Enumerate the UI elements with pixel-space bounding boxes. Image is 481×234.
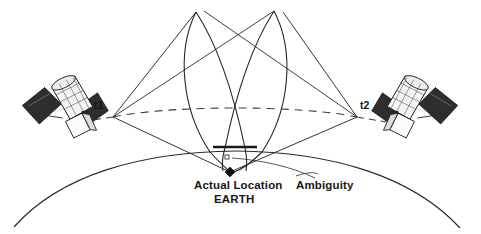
label-actual-location: Actual Location [194, 179, 283, 191]
figure-root: t1 t2 Actual Location EARTH Ambiguity [0, 0, 481, 234]
sight-line-t2-upper [283, 12, 357, 117]
ambiguity-point-marker [225, 155, 229, 159]
baseline-dashed-t1-t2 [113, 108, 357, 117]
marker-ambiguity [225, 155, 229, 159]
label-t1: t1 [94, 99, 104, 111]
label-ambiguity: Ambiguity [296, 179, 354, 191]
ambiguity-leader-line [232, 158, 315, 178]
sight-line-t1-lower [113, 117, 230, 172]
label-earth: EARTH [214, 193, 254, 205]
satellite-right [367, 67, 462, 149]
sight-line-t1-upper-b [113, 11, 274, 117]
ambiguity-leader-group [232, 158, 318, 178]
sight-line-t1-upper [113, 12, 196, 117]
label-t2: t2 [360, 99, 370, 111]
